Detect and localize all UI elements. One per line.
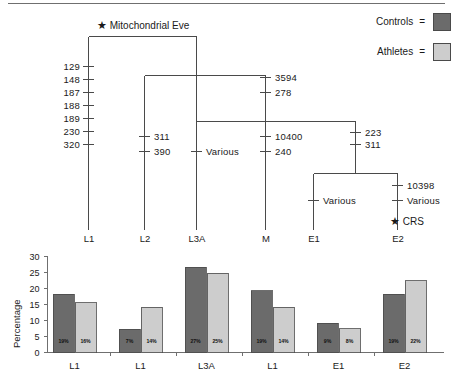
top-divider [8,3,445,4]
bar-chart [0,244,451,379]
bar-value-label: 7% [119,339,140,344]
bar [141,307,162,352]
mutation-value: 148 [58,75,80,85]
tree-axis-label-e1: E1 [303,234,325,244]
legend-item-athletes: Athletes = [345,43,451,61]
bar-value-label: 22% [405,339,426,344]
mutation-value: Various [407,196,440,206]
crs-node: ★ CRS [390,216,424,227]
mutation-value: 188 [58,101,80,111]
bar [75,303,96,353]
x-category-label: L1 [116,361,166,371]
legend-swatch-controls [433,13,451,31]
bar-chart-panel: Percentage 051015202530 L1L1L3AL1E1E2 19… [0,244,451,379]
bar [383,294,404,352]
bar-value-label: 19% [383,339,404,344]
x-category-label: E2 [380,361,430,371]
tree-axis-label-m: M [255,234,277,244]
bar-value-label: 19% [53,339,74,344]
legend-label-controls: Controls [376,17,413,27]
bar-value-label: 16% [75,339,96,344]
y-tick-label: 10 [20,317,40,326]
y-tick-label: 5 [20,333,40,342]
bar-value-label: 14% [273,339,294,344]
mutation-value: 187 [58,88,80,98]
tree-axis-label-e2: E2 [387,234,409,244]
figure-root: ★ Mitochondrial Eve ★ CRS 129 148 187 18… [0,0,451,379]
mutation-value: 223 [365,128,381,138]
x-category-label: L3A [182,361,232,371]
x-category-label: L1 [50,361,100,371]
mutation-value: 311 [365,140,381,150]
mutation-value: 10398 [407,181,434,191]
mutation-value: 129 [58,62,80,72]
mutation-value: 311 [154,132,170,142]
tree-axis-label-l3a: L3A [183,234,211,244]
bar [273,307,294,352]
x-category-label: E1 [314,361,364,371]
tree-axis-label-l2: L2 [134,234,156,244]
mutation-value: 10400 [275,132,302,142]
mitochondrial-eve-node: ★ Mitochondrial Eve [97,20,189,31]
mutation-value: 189 [58,114,80,124]
mutation-value: 390 [154,147,170,157]
bar [53,294,74,352]
star-icon: ★ [390,215,400,227]
bar-value-label: 27% [185,339,206,344]
y-tick-label: 30 [20,253,40,262]
bar-value-label: 19% [251,339,272,344]
legend: Controls = Athletes = [345,13,451,63]
mutation-value: 3594 [275,73,297,83]
crs-label: CRS [403,216,424,227]
mitochondrial-eve-label: Mitochondrial Eve [110,20,189,31]
y-tick-label: 20 [20,285,40,294]
legend-equals: = [419,17,425,27]
legend-equals: = [419,47,425,57]
x-category-label: L1 [248,361,298,371]
y-tick-label: 15 [20,301,40,310]
mutation-value: 278 [275,88,291,98]
bar-value-label: 9% [317,339,338,344]
bar-value-label: 25% [207,339,228,344]
mutation-value: Various [323,196,356,206]
bar-value-label: 8% [339,339,360,344]
mutation-value: 320 [58,140,80,150]
tree-axis-label-l1: L1 [78,234,100,244]
legend-label-athletes: Athletes [377,47,413,57]
y-tick-label: 25 [20,269,40,278]
y-tick-label: 0 [20,349,40,358]
mutation-value: Various [206,147,239,157]
mutation-value: 240 [275,147,291,157]
mutation-value: 230 [58,127,80,137]
bar-value-label: 14% [141,339,162,344]
star-icon: ★ [97,19,107,31]
legend-swatch-athletes [433,43,451,61]
legend-item-controls: Controls = [345,13,451,31]
